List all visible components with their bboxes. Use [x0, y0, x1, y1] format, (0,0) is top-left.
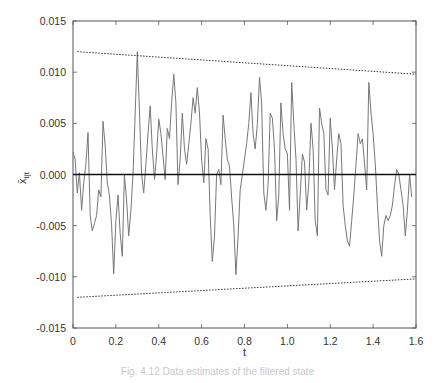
- figure-caption: Fig. 4.12 Data estimates of the filtered…: [0, 366, 435, 377]
- series-lower-bound: [77, 279, 416, 297]
- y-axis-label: x̄t|t: [16, 171, 31, 184]
- x-tick-label: 1.4: [366, 335, 381, 347]
- x-tick-label: 1.0: [280, 335, 295, 347]
- y-tick-label: 0.005: [40, 117, 66, 129]
- y-tick-label: -0.015: [36, 322, 66, 334]
- y-tick-label: 0.000: [40, 169, 66, 181]
- y-tick-label: -0.010: [36, 271, 66, 283]
- series-upper-bound: [77, 52, 416, 74]
- x-tick-label: 0: [70, 335, 76, 347]
- x-tick-label: 1.6: [409, 335, 424, 347]
- y-tick-label: -0.005: [36, 220, 66, 232]
- y-axis-label-text: x̄t|t: [16, 171, 31, 184]
- line-chart: 00.20.40.60.81.01.21.41.6-0.015-0.010-0.…: [0, 0, 435, 383]
- x-tick-label: 1.2: [323, 335, 338, 347]
- y-tick-label: 0.010: [40, 66, 66, 78]
- x-axis-label: t: [243, 346, 246, 358]
- series-filtered-estimate: [73, 52, 412, 275]
- x-tick-label: 0.2: [109, 335, 124, 347]
- x-tick-label: 0.4: [151, 335, 166, 347]
- y-tick-label: 0.015: [40, 15, 66, 27]
- x-tick-label: 0.6: [194, 335, 209, 347]
